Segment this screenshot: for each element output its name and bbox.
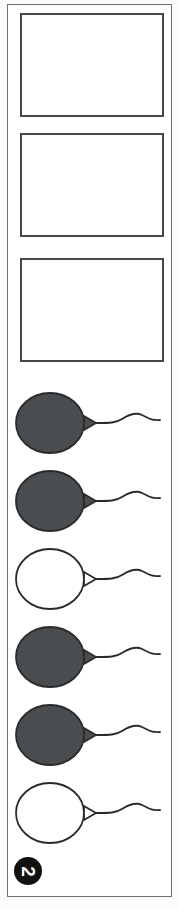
balloon-icon xyxy=(12,619,164,697)
balloon-icon xyxy=(12,541,164,619)
page-number-label: 2 xyxy=(18,866,37,877)
answer-box-3[interactable] xyxy=(20,258,164,362)
balloon-icon xyxy=(12,775,164,853)
balloon-3[interactable] xyxy=(12,541,164,619)
balloon-5[interactable] xyxy=(12,697,164,775)
balloon-icon xyxy=(12,385,164,463)
balloon-6[interactable] xyxy=(12,775,164,853)
answer-box-2[interactable] xyxy=(20,133,164,237)
balloon-icon xyxy=(12,697,164,775)
balloon-icon xyxy=(12,463,164,541)
answer-box-1[interactable] xyxy=(20,13,164,117)
worksheet-page: 2 xyxy=(0,0,178,910)
balloon-1[interactable] xyxy=(12,385,164,463)
balloon-4[interactable] xyxy=(12,619,164,697)
balloon-2[interactable] xyxy=(12,463,164,541)
page-number-badge: 2 xyxy=(14,857,42,885)
